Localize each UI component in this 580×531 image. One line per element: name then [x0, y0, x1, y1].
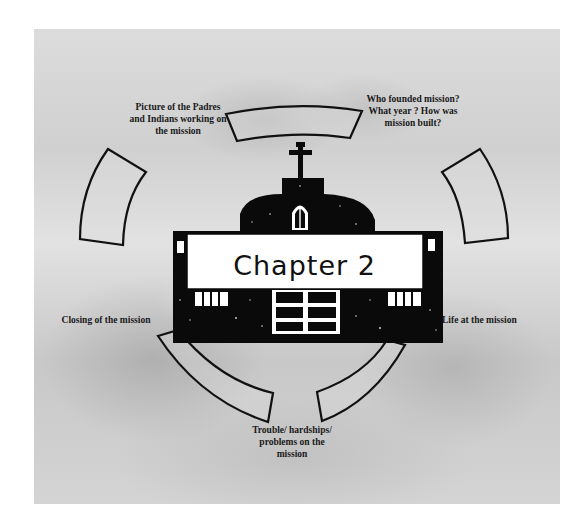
arc-box-top: [226, 106, 362, 141]
topic-label-padres-indians: Picture of the Padres and Indians workin…: [128, 101, 228, 137]
arc-box-lower-left: [158, 330, 273, 422]
topic-label-closing: Closing of the mission: [50, 314, 162, 326]
arc-box-lower-right: [317, 340, 405, 421]
topic-label-founding: Who founded mission? What year ? How was…: [362, 93, 464, 129]
center-title: Chapter 2: [187, 240, 422, 290]
topic-label-trouble: Trouble/ hardships/ problems on the miss…: [250, 424, 334, 460]
topic-label-life: Life at the mission: [442, 314, 532, 326]
arc-box-upper-right: [442, 149, 508, 243]
arc-box-upper-left: [80, 149, 146, 245]
